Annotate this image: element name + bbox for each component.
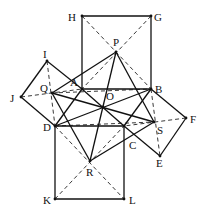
label-K: K: [43, 194, 51, 206]
geometry-diagram: HGPABIJQODCSFERKL: [0, 0, 208, 209]
point-L: [123, 198, 126, 201]
point-S: [153, 121, 156, 124]
label-A: A: [70, 76, 78, 88]
label-J: J: [10, 92, 15, 104]
label-E: E: [156, 157, 163, 169]
label-S: S: [157, 124, 163, 136]
label-F: F: [190, 113, 196, 125]
label-O: O: [106, 90, 114, 102]
segment-FE: [160, 118, 186, 156]
point-C: [123, 125, 126, 128]
segment-RS: [90, 122, 154, 161]
point-O: [102, 106, 105, 109]
point-Q: [51, 92, 54, 95]
point-I: [46, 60, 49, 63]
label-C: C: [129, 139, 136, 151]
point-K: [54, 198, 57, 201]
label-H: H: [68, 11, 76, 23]
label-Q: Q: [40, 82, 48, 94]
point-D: [54, 125, 57, 128]
point-A: [81, 88, 84, 91]
point-H: [81, 15, 84, 18]
point-P: [115, 51, 118, 54]
point-G: [150, 15, 153, 18]
point-J: [20, 96, 23, 99]
label-L: L: [129, 194, 136, 206]
diagram-canvas: HGPABIJQODCSFERKL: [0, 0, 208, 209]
point-R: [89, 160, 92, 163]
label-D: D: [43, 121, 51, 133]
point-B: [150, 88, 153, 91]
label-I: I: [43, 48, 47, 60]
point-F: [185, 117, 188, 120]
label-R: R: [86, 166, 94, 178]
label-G: G: [154, 11, 162, 23]
label-B: B: [155, 83, 162, 95]
label-P: P: [113, 36, 119, 48]
